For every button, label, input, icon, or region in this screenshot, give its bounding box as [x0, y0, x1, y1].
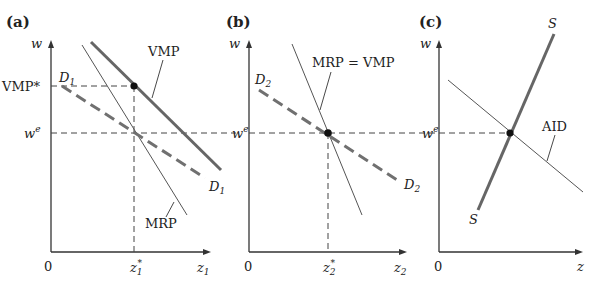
- panel-c-origin-label: 0: [434, 259, 442, 274]
- panel-b: (b) w 0 z2 we D2 D2 z2* MRP = VMP: [226, 13, 437, 277]
- panel-c-aid-label: AID: [541, 119, 567, 134]
- panel-b-z2-star-label: z2*: [322, 258, 336, 277]
- panel-a-vmp-star-label: VMP*: [1, 79, 40, 94]
- panel-c-label: (c): [419, 13, 442, 31]
- panel-a-mrp-pointer: [166, 202, 174, 217]
- panel-a-we-label: we: [24, 124, 40, 141]
- panel-a-vmp-curve: [91, 42, 221, 170]
- panel-c-s-bottom-label: S: [469, 212, 478, 227]
- panel-b-x-arrow-icon: [399, 249, 407, 255]
- panel-a-vmp-pointer: [152, 60, 163, 98]
- panel-b-d2-bottom-label: D2: [403, 177, 420, 194]
- panel-c-y-arrow-icon: [436, 40, 442, 48]
- panel-a-x-arrow-icon: [203, 249, 211, 255]
- economics-diagram: (a) w 0 z1 VMP* we D1 D1 z1* VMP MRP (b): [0, 0, 597, 283]
- panel-a-y-arrow-icon: [48, 40, 54, 48]
- panel-b-y-arrow-icon: [246, 40, 252, 48]
- panel-b-origin-label: 0: [244, 259, 252, 274]
- panel-c-equilibrium-point: [506, 129, 513, 136]
- panel-b-label: (b): [226, 13, 251, 31]
- panel-c-y-axis-label: w: [420, 36, 431, 51]
- panel-b-d2-top-label: D2: [254, 72, 271, 89]
- panel-c: (c) w 0 z we S S AID: [419, 13, 584, 274]
- panel-c-s-top-label: S: [548, 16, 557, 31]
- panel-a-vmp-label: VMP: [147, 44, 180, 59]
- panel-a-x-axis-label: z1: [196, 260, 210, 277]
- panel-c-aid-pointer: [547, 135, 555, 161]
- panel-a-label: (a): [6, 13, 30, 31]
- panel-a-vmp-point: [130, 82, 137, 89]
- panel-a-y-axis-label: w: [31, 36, 42, 51]
- panel-c-aid-curve: [448, 80, 583, 192]
- panel-a-d1-top-label: D1: [58, 70, 75, 87]
- panel-a-d1-bottom-label: D1: [208, 179, 225, 196]
- panel-a-z1-star-label: z1*: [129, 258, 143, 277]
- panel-b-y-axis-label: w: [229, 36, 240, 51]
- panel-b-equilibrium-point: [324, 129, 332, 137]
- panel-b-mrp-vmp-pointer: [320, 72, 331, 110]
- panel-c-we-label: we: [422, 124, 438, 141]
- panel-c-x-arrow-icon: [575, 249, 583, 255]
- panel-c-x-axis-label: z: [576, 259, 584, 274]
- panel-b-we-label: we: [232, 124, 248, 141]
- panel-b-mrp-vmp-label: MRP = VMP: [312, 55, 395, 70]
- panel-b-x-axis-label: z2: [393, 260, 407, 277]
- panel-a-origin-label: 0: [44, 259, 52, 274]
- panel-a: (a) w 0 z1 VMP* we D1 D1 z1* VMP MRP: [1, 13, 236, 277]
- panel-a-mrp-label: MRP: [145, 216, 177, 231]
